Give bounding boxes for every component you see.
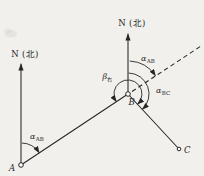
figure-canvas: N (北) N (北) A B C αAB αAB αBC β右 [0, 0, 204, 176]
line-BC [128, 94, 179, 149]
point-A-marker [19, 163, 24, 168]
scan-smudge [4, 29, 17, 38]
north-label-at-A: N (北) [11, 49, 38, 59]
angle-label-alpha-AB-at-A: αAB [30, 132, 44, 142]
angle-label-alpha-BC: αBC [156, 86, 170, 96]
line-AB [21, 94, 128, 165]
point-A-label: A [8, 163, 15, 173]
arc-alpha-AB-at-A [22, 143, 40, 153]
north-label-at-B: N (北) [118, 18, 145, 28]
point-B-marker [126, 92, 131, 97]
angle-label-beta-right: β右 [102, 72, 113, 83]
point-C-marker [177, 147, 181, 151]
point-C-label: C [184, 145, 191, 155]
azimuth-diagram: N (北) N (北) A B C αAB αAB αBC β右 [0, 0, 204, 176]
point-B-label: B [128, 97, 135, 107]
angle-label-alpha-AB-at-B: αAB [141, 54, 155, 64]
